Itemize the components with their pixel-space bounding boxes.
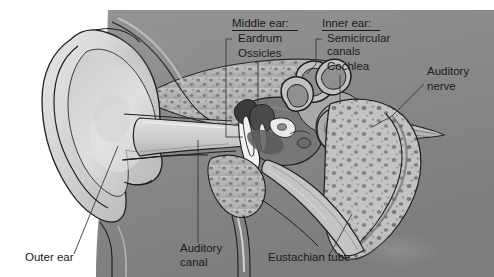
- label-auditory-canal-line1: Auditory: [180, 242, 222, 254]
- label-ossicles: Ossicles: [238, 47, 282, 59]
- label-auditory-canal-line2: canal: [180, 256, 208, 268]
- heading-middle-ear: Middle ear:: [232, 17, 289, 29]
- diagram-canvas: Middle ear: Inner ear: Eardrum Ossicles …: [0, 0, 494, 277]
- heading-inner-ear: Inner ear:: [322, 17, 371, 29]
- label-eardrum: Eardrum: [238, 32, 282, 44]
- label-semicircular-canals-line2: canals: [327, 45, 360, 57]
- ear-anatomy-diagram: Middle ear: Inner ear: Eardrum Ossicles …: [0, 0, 494, 277]
- label-cochlea: Cochlea: [327, 60, 370, 72]
- label-semicircular-canals-line1: Semicircular: [327, 32, 390, 44]
- label-eustachian-tube: Eustachian tube: [268, 251, 350, 263]
- label-outer-ear: Outer ear: [25, 251, 74, 263]
- label-auditory-nerve-line2: nerve: [427, 80, 456, 92]
- label-auditory-nerve-line1: Auditory: [427, 65, 469, 77]
